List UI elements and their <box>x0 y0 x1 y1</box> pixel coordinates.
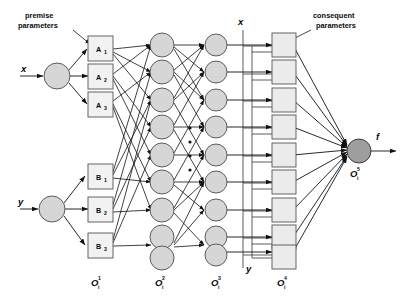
input-bus-lines <box>243 30 272 268</box>
svg-text:4: 4 <box>284 275 287 281</box>
edges-consequent-to-output <box>293 45 347 252</box>
svg-text:i: i <box>284 284 286 290</box>
layer-label-3: O i 3 <box>211 275 221 290</box>
svg-text:3: 3 <box>218 275 221 281</box>
mf-sub-B3: 3 <box>104 246 107 252</box>
node-output <box>347 139 371 163</box>
consequent-parameters-label-line1: consequent <box>313 11 355 20</box>
svg-text:1: 1 <box>98 275 101 281</box>
edges-norm-to-consequent <box>227 45 272 252</box>
input-x-label: x <box>20 63 27 74</box>
layer3-norm-nodes <box>205 34 227 266</box>
svg-text:2: 2 <box>162 275 165 281</box>
mf-sub-A1: 1 <box>104 49 107 55</box>
node-mf-B1: B 1 <box>88 164 113 189</box>
bus-x-label: x <box>237 16 244 27</box>
mf-sub-B1: 1 <box>104 177 107 183</box>
edges-rules-to-norm <box>174 45 204 247</box>
output-f-label: f <box>376 131 380 142</box>
edges-mf-to-rules <box>113 45 151 246</box>
node-mf-A2: A 2 <box>88 64 113 89</box>
mf-sub-B2: 2 <box>104 210 107 216</box>
node-mf-A1: A 1 <box>88 36 113 61</box>
mf-label-B3: B <box>96 242 101 251</box>
layer-label-2: O i 2 <box>155 275 165 290</box>
svg-text:i: i <box>98 284 100 290</box>
mf-sub-A3: 3 <box>104 105 107 111</box>
node-mf-A3: A 3 <box>88 92 113 117</box>
mf-label-B1: B <box>96 173 101 182</box>
anfis-diagram: A 1 A 2 A 3 B 1 B 2 B 3 <box>0 0 403 301</box>
svg-text:i: i <box>218 284 220 290</box>
input-y-label: y <box>17 196 24 207</box>
mf-label-B2: B <box>96 206 101 215</box>
node-mf-B2: B 2 <box>88 197 113 222</box>
svg-text:i: i <box>357 175 359 181</box>
layer4-consequent-nodes <box>272 33 296 269</box>
output-node-layer-label: O i 5 <box>350 166 360 181</box>
mf-label-A1: A <box>96 45 101 54</box>
consequent-parameters-label-line2: parameters <box>316 21 356 30</box>
svg-text:5: 5 <box>357 166 360 172</box>
layer2-rule-nodes <box>150 33 174 270</box>
diagram-canvas: A 1 A 2 A 3 B 1 B 2 B 3 <box>0 0 403 301</box>
mf-label-A3: A <box>96 101 101 110</box>
node-mf-B3: B 3 <box>88 233 113 258</box>
layer-label-1: O i 1 <box>91 275 101 290</box>
layer-label-4: O i 4 <box>277 275 287 290</box>
premise-parameters-label-line1: premise <box>25 11 53 20</box>
mf-label-A2: A <box>96 73 101 82</box>
svg-text:i: i <box>162 284 164 290</box>
premise-parameters-label-line2: parameters <box>18 21 58 30</box>
mf-sub-A2: 2 <box>104 77 107 83</box>
node-input-x <box>44 63 70 89</box>
node-input-y <box>39 196 65 222</box>
bus-y-label: y <box>245 263 252 274</box>
